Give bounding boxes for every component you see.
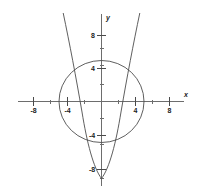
x-tick-label--4: -4 [64,107,70,114]
y-tick-label--8: -8 [89,166,95,173]
axes-group [18,14,184,186]
y-tick-label-8: 8 [91,32,95,39]
y-tick-label-4: 4 [91,65,95,72]
y-axis-label: y [105,14,111,22]
x-tick-label-8: 8 [168,107,172,114]
x-axis-label: x [183,91,189,98]
x-tick-label--8: -8 [30,107,36,114]
coordinate-plot: x y -8 -4 4 8 8 4 -4 -8 [0,0,199,193]
y-tick-label--4: -4 [89,132,95,139]
graph-figure: x y -8 -4 4 8 8 4 -4 -8 [0,0,199,193]
x-tick-label-4: 4 [134,107,138,114]
